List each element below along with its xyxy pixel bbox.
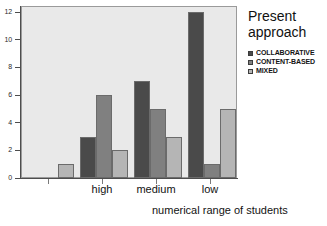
- bar: [134, 81, 150, 178]
- bar: [166, 137, 182, 179]
- bar: [112, 150, 128, 178]
- legend-item: CONTENT-BASED: [248, 58, 326, 66]
- bar: [188, 12, 204, 178]
- legend-swatch-icon: [248, 51, 253, 56]
- bar: [204, 164, 220, 178]
- legend-items: COLLABORATIVECONTENT-BASEDMIXED: [248, 49, 326, 75]
- legend-label: CONTENT-BASED: [256, 58, 315, 66]
- bar: [80, 137, 96, 179]
- legend-item: MIXED: [248, 67, 326, 75]
- legend-label: COLLABORATIVE: [256, 49, 314, 57]
- bar: [150, 109, 166, 178]
- x-axis-title: numerical range of students: [152, 204, 288, 217]
- legend-item: COLLABORATIVE: [248, 49, 326, 57]
- bar: [58, 164, 74, 178]
- bar: [220, 109, 236, 178]
- legend-swatch-icon: [248, 69, 253, 74]
- bar-chart-figure: 024681012 highmediumlow numerical range …: [0, 0, 327, 226]
- legend: Present approach COLLABORATIVECONTENT-BA…: [248, 8, 326, 76]
- legend-label: MIXED: [256, 67, 278, 75]
- bar: [96, 95, 112, 178]
- legend-swatch-icon: [248, 60, 253, 65]
- legend-title: Present approach: [248, 8, 324, 40]
